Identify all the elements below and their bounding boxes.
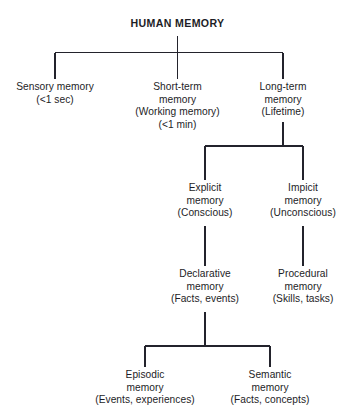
node-episodic-memory: Episodic memory (Events, experiences) [95,369,195,407]
node-short-term-memory-line-4: (<1 min) [135,119,219,132]
node-short-term-memory-line-2: memory [135,94,219,107]
node-semantic-memory: Semantic memory (Facts, concepts) [231,369,310,407]
node-long-term-memory-line-2: memory [260,94,307,107]
node-long-term-memory-line-1: Long-term [260,81,307,94]
memory-hierarchy-diagram: HUMAN MEMORY Sensory memory (<1 sec) Sho… [0,0,355,419]
node-human-memory: HUMAN MEMORY [131,17,225,30]
node-declarative-memory-line-2: memory [171,281,239,294]
node-short-term-memory: Short-term memory (Working memory) (<1 m… [135,81,219,131]
node-semantic-memory-line-2: memory [231,382,310,395]
node-episodic-memory-line-2: memory [95,382,195,395]
node-implicit-memory-line-2: memory [270,195,336,208]
node-short-term-memory-line-3: (Working memory) [135,106,219,119]
node-semantic-memory-line-1: Semantic [231,369,310,382]
node-implicit-memory-line-1: Impicit [270,182,336,195]
node-procedural-memory-line-1: Procedural [273,268,334,281]
node-implicit-memory: Impicit memory (Unconscious) [270,182,336,220]
node-episodic-memory-line-1: Episodic [95,369,195,382]
node-long-term-memory-line-3: (Lifetime) [260,106,307,119]
node-declarative-memory: Declarative memory (Facts, events) [171,268,239,306]
node-explicit-memory-line-1: Explicit [178,182,233,195]
node-short-term-memory-line-1: Short-term [135,81,219,94]
node-sensory-memory: Sensory memory (<1 sec) [16,81,94,106]
node-declarative-memory-line-1: Declarative [171,268,239,281]
node-procedural-memory-line-2: memory [273,281,334,294]
node-episodic-memory-line-3: (Events, experiences) [95,394,195,407]
node-sensory-memory-line-1: Sensory memory [16,81,94,94]
node-explicit-memory-line-3: (Conscious) [178,207,233,220]
node-procedural-memory: Procedural memory (Skills, tasks) [273,268,334,306]
node-sensory-memory-line-2: (<1 sec) [16,94,94,107]
node-explicit-memory-line-2: memory [178,195,233,208]
node-long-term-memory: Long-term memory (Lifetime) [260,81,307,119]
node-declarative-memory-line-3: (Facts, events) [171,293,239,306]
node-procedural-memory-line-3: (Skills, tasks) [273,293,334,306]
node-explicit-memory: Explicit memory (Conscious) [178,182,233,220]
node-implicit-memory-line-3: (Unconscious) [270,207,336,220]
node-human-memory-line-1: HUMAN MEMORY [131,17,225,30]
node-semantic-memory-line-3: (Facts, concepts) [231,394,310,407]
